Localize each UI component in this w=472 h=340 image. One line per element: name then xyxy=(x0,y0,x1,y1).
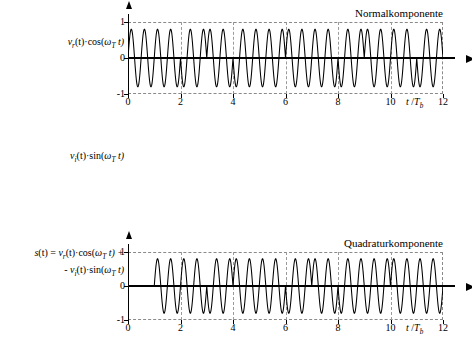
ylabel-sendesignal-line2: - vi(t)·sin(ωT t) xyxy=(0,262,124,280)
x-axis-label-t: t xyxy=(406,96,409,107)
ylabel-tail: t) xyxy=(115,264,124,275)
ylabel-oft: (t)·sin( xyxy=(77,264,105,275)
x-axis-label-sub: b xyxy=(420,102,424,110)
panel-sendesignal: s(t) = vr(t)·cos(ωT t) + - vi(t)·sin(ωT … xyxy=(0,225,472,340)
ylabel-oft: (t)·sin( xyxy=(77,150,105,161)
y-tick-label: 0 xyxy=(120,53,125,63)
ylabel-quadraturkomponente: vi(t)·sin(ωT t) xyxy=(0,148,124,166)
ylabel-tail: t) + xyxy=(106,247,124,258)
x-axis-arrow xyxy=(466,55,472,63)
x-tick-label: 6 xyxy=(283,97,288,107)
ylabel-tail: t) xyxy=(115,36,124,47)
ylabel-normalkomponente: vr(t)·cos(ωT t) xyxy=(0,34,124,52)
panel-normalkomponente: vr(t)·cos(ωT t) Normalkomponente 0246810… xyxy=(0,0,472,115)
plot-title-normalkomponente: Normalkomponente xyxy=(355,7,443,19)
y-tick-label: -1 xyxy=(117,89,125,99)
x-tick-label: 12 xyxy=(438,97,448,107)
x-axis xyxy=(128,57,455,59)
ylabel-sendesignal-line1: s(t) = vr(t)·cos(ωT t) + xyxy=(0,245,124,263)
y-tick-label: 1 xyxy=(120,17,125,27)
x-axis-label: t /Tb xyxy=(406,97,423,110)
ylabel-tail: t) xyxy=(115,150,124,161)
ylabel-eq: (t) = xyxy=(38,247,58,258)
y-axis-arrow xyxy=(126,1,132,9)
panel-quadraturkomponente: vi(t)·sin(ωT t) Quadraturkomponente 0246… xyxy=(0,115,472,225)
y-axis xyxy=(128,14,129,94)
x-tick-label: 8 xyxy=(336,97,341,107)
x-tick-label: 4 xyxy=(231,97,236,107)
x-tick-label: 10 xyxy=(386,97,396,107)
ylabel-oft: (t)·cos( xyxy=(75,36,104,47)
x-tick-label: 0 xyxy=(126,97,131,107)
plot-normalkomponente: Normalkomponente 02468101210-1 t /Tb xyxy=(128,22,443,94)
x-tick-label: 2 xyxy=(178,97,183,107)
ylabel-oft: (t)·cos( xyxy=(66,247,95,258)
